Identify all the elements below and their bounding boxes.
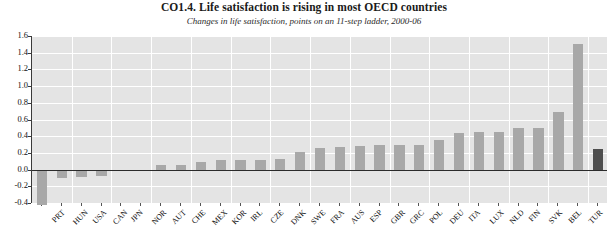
x-axis-tick-label: IRL bbox=[248, 208, 263, 223]
x-axis-tick-mark bbox=[537, 203, 538, 206]
x-axis-tick-label: HUN bbox=[71, 208, 90, 227]
x-axis-tick-mark bbox=[398, 203, 399, 206]
x-axis-tick-label: ESP bbox=[368, 208, 384, 224]
x-axis-tick-mark bbox=[240, 203, 241, 206]
bar-esp bbox=[355, 146, 365, 169]
y-axis-tick-label: 1.2 bbox=[2, 63, 28, 73]
x-axis-tick-mark bbox=[418, 203, 419, 206]
gridline-vertical bbox=[151, 36, 152, 203]
x-axis-tick-mark bbox=[597, 203, 598, 206]
x-axis-tick-mark bbox=[140, 203, 141, 206]
x-axis-tick-label: CZE bbox=[269, 208, 286, 225]
x-axis-tick-label: GBR bbox=[388, 208, 406, 226]
x-axis-tick-label: TUR bbox=[587, 208, 605, 226]
x-axis-tick-label: NOR bbox=[150, 208, 168, 226]
x-axis-tick-mark bbox=[557, 203, 558, 206]
gridline-horizontal bbox=[32, 36, 607, 37]
x-axis-tick-mark bbox=[359, 203, 360, 206]
x-axis-tick-label: GRC bbox=[408, 208, 426, 226]
x-axis-tick-label: FIN bbox=[526, 208, 541, 223]
bar-oecd28 bbox=[593, 149, 603, 170]
gridline-horizontal bbox=[32, 103, 607, 104]
x-axis-tick-mark bbox=[101, 203, 102, 206]
chart-subtitle: Changes in life satisfaction, points on … bbox=[0, 16, 608, 26]
y-axis-tick-label: 1.6 bbox=[2, 30, 28, 40]
bar-gbr bbox=[374, 145, 384, 169]
x-axis-tick-label: AUT bbox=[170, 208, 188, 226]
x-axis-tick-label: ITA bbox=[467, 208, 482, 223]
gridline-vertical bbox=[350, 36, 351, 203]
x-axis-tick-mark bbox=[319, 203, 320, 206]
bar-tur bbox=[573, 44, 583, 169]
gridline-vertical bbox=[390, 36, 391, 203]
x-axis-tick-mark bbox=[438, 203, 439, 206]
x-axis-tick-mark bbox=[478, 203, 479, 206]
x-axis-tick-label: POL bbox=[428, 208, 445, 225]
y-axis-tick-label: 0.0 bbox=[2, 164, 28, 174]
x-axis-tick-mark bbox=[339, 203, 340, 206]
x-axis-tick-label: CHE bbox=[190, 208, 208, 226]
bar-fin bbox=[513, 128, 523, 170]
bar-swe bbox=[295, 152, 305, 170]
x-axis-tick-label: KOR bbox=[230, 208, 248, 226]
gridline-vertical bbox=[72, 36, 73, 203]
gridline-vertical bbox=[548, 36, 549, 203]
x-axis-tick-label: MEX bbox=[210, 208, 229, 227]
bar-bel bbox=[553, 112, 563, 170]
x-axis-tick-mark bbox=[379, 203, 380, 206]
gridline-horizontal bbox=[32, 53, 607, 54]
bar-lux bbox=[474, 132, 484, 170]
x-axis-tick-label: SVK bbox=[547, 208, 565, 226]
y-axis-tick-label: 0.4 bbox=[2, 130, 28, 140]
x-axis-tick-label: FRA bbox=[329, 208, 346, 225]
x-axis-labels: PRTHUNUSACANJPNNORAUTCHEMEXKORIRLCZEDNKS… bbox=[31, 203, 607, 245]
bar-cze bbox=[255, 160, 265, 170]
bar-kor bbox=[216, 160, 226, 169]
bar-prt bbox=[37, 170, 47, 205]
bar-fra bbox=[315, 148, 325, 170]
x-axis-tick-mark bbox=[498, 203, 499, 206]
zero-baseline bbox=[32, 170, 607, 171]
x-axis-tick-mark bbox=[279, 203, 280, 206]
x-axis-tick-label: USA bbox=[90, 208, 108, 226]
bar-hun bbox=[57, 170, 67, 178]
x-axis-tick-mark bbox=[200, 203, 201, 206]
plot-area bbox=[31, 36, 607, 203]
gridline-vertical bbox=[588, 36, 589, 203]
gridline-horizontal bbox=[32, 120, 607, 121]
x-axis-tick-mark bbox=[81, 203, 82, 206]
x-axis-tick-mark bbox=[120, 203, 121, 206]
gridline-vertical bbox=[429, 36, 430, 203]
x-axis-tick-mark bbox=[220, 203, 221, 206]
x-axis-tick-label: SWE bbox=[309, 208, 327, 226]
bar-irl bbox=[235, 160, 245, 170]
bar-ita bbox=[454, 133, 464, 170]
x-axis-tick-label: LUX bbox=[488, 208, 506, 226]
y-axis-labels: 1.61.41.21.00.80.60.40.20.0-0.2-0.4 bbox=[0, 36, 28, 203]
x-axis-tick-mark bbox=[577, 203, 578, 206]
x-axis-tick-label: DNK bbox=[289, 208, 308, 227]
life-satisfaction-bar-chart: CO1.4. Life satisfaction is rising in mo… bbox=[0, 0, 608, 245]
gridline-vertical bbox=[469, 36, 470, 203]
gridline-vertical bbox=[310, 36, 311, 203]
gridline-horizontal bbox=[32, 69, 607, 70]
gridline-horizontal bbox=[32, 86, 607, 87]
x-axis-tick-mark bbox=[259, 203, 260, 206]
bar-grc bbox=[394, 145, 404, 169]
bar-nld bbox=[494, 132, 504, 170]
y-axis-tick-label: 0.8 bbox=[2, 97, 28, 107]
bar-deu bbox=[434, 140, 444, 169]
x-axis-tick-mark bbox=[518, 203, 519, 206]
y-axis-tick-label: 1.0 bbox=[2, 80, 28, 90]
bar-dnk bbox=[275, 159, 285, 170]
y-axis-tick-label: 1.4 bbox=[2, 47, 28, 57]
gridline-vertical bbox=[231, 36, 232, 203]
x-axis-tick-mark bbox=[61, 203, 62, 206]
y-axis-tick-label: 0.2 bbox=[2, 147, 28, 157]
y-axis-tick-label: 0.6 bbox=[2, 114, 28, 124]
bar-usa bbox=[76, 170, 86, 178]
chart-title: CO1.4. Life satisfaction is rising in mo… bbox=[0, 1, 608, 13]
gridline-horizontal bbox=[32, 186, 607, 187]
x-axis-tick-mark bbox=[160, 203, 161, 206]
x-axis-tick-label: DEU bbox=[448, 208, 466, 226]
